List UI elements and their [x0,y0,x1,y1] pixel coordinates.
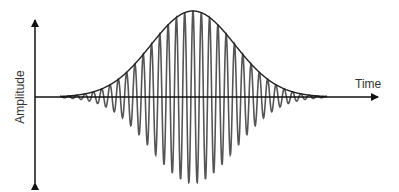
amplitude-axis-label: Amplitude [13,70,27,124]
wave-packet-diagram: Time Amplitude [0,0,399,192]
time-axis-label: Time [355,77,382,91]
